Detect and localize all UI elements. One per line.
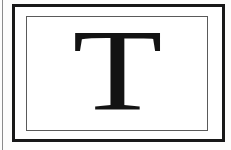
page-edge-line [2,0,3,150]
drop-cap-letter: T [72,13,162,129]
scanned-page: T [0,0,231,150]
inner-frame: T [26,16,208,131]
